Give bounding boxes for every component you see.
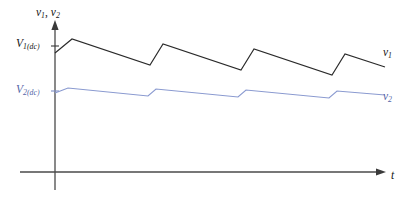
y-axis-label: v1, v2 <box>36 7 60 19</box>
v1-curve-label: v1 <box>383 47 392 59</box>
y-axis-arrowhead <box>51 20 58 30</box>
x-axis-arrowhead <box>376 168 386 175</box>
waveform-plot <box>0 0 409 212</box>
v1-curve-subscript: 1 <box>388 51 392 60</box>
v2-curve-subscript: 2 <box>388 95 392 104</box>
v1-dc-level-label: V1(dc) <box>16 38 40 50</box>
v1-waveform-curve <box>55 39 385 75</box>
waveform-figure: v1, v2 V1(dc) V2(dc) v1 v2 t <box>0 0 409 212</box>
x-axis-time-label: t <box>391 170 394 182</box>
y-axis-label-v1-subscript: 1 <box>41 11 45 20</box>
v2-waveform-curve <box>55 88 385 98</box>
v2-dc-level-label: V2(dc) <box>16 84 40 96</box>
v1-dc-subscript: 1(dc) <box>23 42 39 51</box>
v2-dc-subscript: 2(dc) <box>23 88 39 97</box>
v1-dc-symbol: V <box>16 37 23 49</box>
v2-dc-symbol: V <box>16 83 23 95</box>
y-axis-label-v2-subscript: 2 <box>56 11 60 20</box>
v2-curve-label: v2 <box>383 91 392 103</box>
x-axis-time-symbol: t <box>391 169 394 181</box>
